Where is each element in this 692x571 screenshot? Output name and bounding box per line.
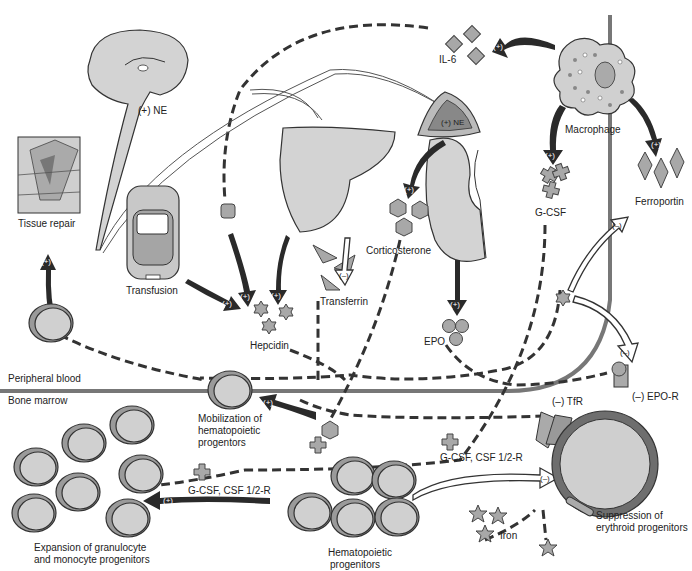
svg-text:(+): (+) [41, 257, 51, 266]
svg-text:(–): (–) [612, 221, 622, 230]
svg-text:(+): (+) [240, 292, 250, 301]
svg-text:(–): (–) [620, 348, 630, 357]
macrophage-label: Macrophage [565, 124, 621, 135]
tfr-label: (–) TfR [552, 396, 583, 407]
svg-text:(+): (+) [651, 140, 661, 149]
il6-label: IL-6 [439, 54, 457, 65]
svg-text:(+): (+) [450, 300, 460, 309]
hepcidin-star-icon [556, 290, 570, 306]
mobilized-progenitor-cell [208, 371, 252, 409]
mobilization-label-1: Mobilization of [198, 413, 262, 424]
expansion-label-2: and monocyte progenitors [34, 554, 150, 565]
gcsf-csf-left-label: G-CSF, CSF 1/2-R [188, 485, 271, 496]
epo-r-label: (–) EPO-R [632, 391, 679, 402]
svg-text:(+): (+) [263, 398, 273, 407]
ferroportin-label: Ferroportin [635, 196, 684, 207]
peripheral-blood-label: Peripheral blood [8, 373, 81, 384]
adrenal-gland-icon [418, 92, 480, 137]
il6-molecule-icon [221, 204, 235, 218]
stress-hematopoiesis-diagram: Peripheral blood Bone marrow (+) NE Tis [0, 0, 692, 571]
macrophage-icon [554, 38, 635, 115]
svg-text:(+): (+) [493, 42, 503, 51]
svg-text:(+): (+) [404, 185, 414, 194]
bone-marrow-label: Bone marrow [8, 395, 68, 406]
epo-molecules [443, 320, 469, 346]
mobilization-label-3: progentors [198, 437, 246, 448]
gcsf-right-icon [442, 434, 458, 450]
adrenal-ne-label: (+) NE [441, 118, 464, 127]
svg-text:(–): (–) [540, 474, 550, 483]
tissue-repair-icon [18, 137, 80, 213]
suppression-label-2: erythroid progenitors [596, 522, 688, 533]
iron-label: Iron [500, 530, 517, 541]
nervous-ne-label: (+) NE [138, 105, 168, 116]
svg-text:(+): (+) [222, 299, 232, 308]
hepcidin-molecules [254, 301, 293, 334]
hepcidin-label: Hepcidin [250, 340, 289, 351]
mobilization-label-2: hematopoietic [198, 425, 260, 436]
gcsf-marrow-icon [310, 437, 326, 453]
gcsf-label: G-CSF [535, 207, 566, 218]
gcsf-molecules [538, 162, 571, 200]
epo-label: EPO [424, 336, 445, 347]
granulocyte-progenitor-cluster [12, 406, 163, 537]
svg-text:(+): (+) [163, 496, 173, 505]
expansion-label-1: Expansion of granulocyte [34, 542, 147, 553]
ferroportin-molecules [638, 148, 684, 188]
transfusion-label: Transfusion [126, 285, 178, 296]
kidney-icon [426, 138, 486, 261]
tissue-repair-label: Tissue repair [18, 218, 76, 229]
svg-text:(–): (–) [339, 271, 349, 280]
corticosterone-label: Corticosterone [366, 245, 431, 256]
hemato-label-2: progenitors [330, 559, 380, 570]
transferrin-label: Transferrin [320, 296, 368, 307]
svg-text:(+): (+) [545, 151, 555, 160]
suppression-label-1: Suppression of [596, 510, 663, 521]
liver-icon [280, 127, 395, 232]
svg-text:(+): (+) [271, 291, 281, 300]
hemato-label-1: Hematopoietic [328, 547, 392, 558]
corticosterone-molecules [390, 199, 428, 236]
gcsf-csf-right-label: G-CSF, CSF 1/2-R [440, 452, 523, 463]
corticosterone-marrow-icon [322, 421, 338, 439]
transfusion-bag-icon [127, 186, 179, 279]
tissue-repair-cell [29, 304, 73, 342]
